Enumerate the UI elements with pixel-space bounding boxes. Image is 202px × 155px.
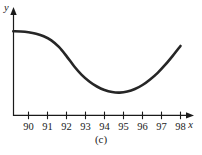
figure-caption: (c) <box>0 132 202 146</box>
tick-label-95: 95 <box>118 121 129 132</box>
tick-label-91: 91 <box>42 121 53 132</box>
tick-label-98: 98 <box>175 121 186 132</box>
x-axis-arrowhead <box>186 112 194 118</box>
x-axis-tick-labels: 90 91 92 93 94 95 96 97 98 <box>23 121 186 132</box>
y-axis-arrowhead <box>10 7 16 15</box>
figure-container: 90 91 92 93 94 95 96 97 98 y x (c) <box>0 0 202 155</box>
tick-label-93: 93 <box>80 121 91 132</box>
tick-label-90: 90 <box>23 121 34 132</box>
tick-label-97: 97 <box>156 121 167 132</box>
tick-label-94: 94 <box>99 121 110 132</box>
tick-label-92: 92 <box>61 121 72 132</box>
tick-label-96: 96 <box>137 121 148 132</box>
data-curve-line <box>13 31 180 92</box>
y-axis-label: y <box>3 2 9 13</box>
x-axis-label: x <box>187 119 193 130</box>
